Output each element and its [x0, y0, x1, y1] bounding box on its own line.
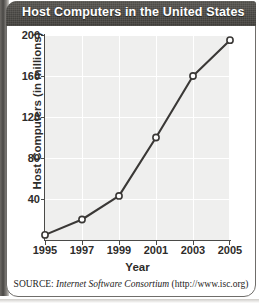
data-point-2001	[153, 134, 159, 140]
source-url: (http://www.isc.org)	[172, 279, 249, 289]
data-point-2005	[227, 37, 233, 43]
series-markers	[42, 37, 233, 238]
series-line	[45, 40, 230, 235]
data-series-layer	[0, 0, 259, 305]
source-label: SOURCE:	[14, 279, 54, 289]
source-organization: Internet Software Consortium	[56, 279, 169, 289]
plot-wrapper: 200 160 120 80 40 1995 1997 1999 2001 20…	[0, 0, 259, 305]
data-point-1999	[116, 193, 122, 199]
data-point-1995	[42, 232, 48, 238]
source-note: SOURCE: Internet Software Consortium (ht…	[6, 279, 256, 289]
data-point-2003	[190, 73, 196, 79]
data-point-1997	[79, 216, 85, 222]
figure-container: Host Computers in the United States 200 …	[0, 0, 259, 305]
